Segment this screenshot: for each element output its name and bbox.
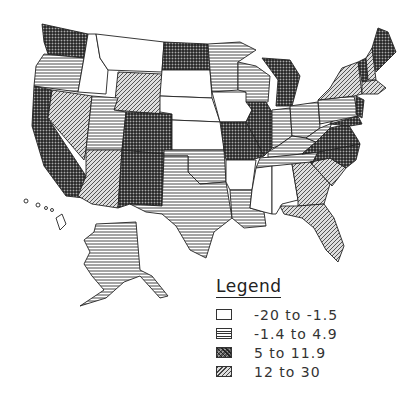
state-ME [372,28,396,72]
legend-label: -20 to -1.5 [254,307,338,323]
state-AR [226,160,256,190]
state-FL [280,204,344,262]
state-AK [80,222,168,306]
legend-label: 5 to 11.9 [254,345,326,361]
legend-item: -1.4 to 4.9 [216,324,366,343]
legend-swatch-crosshatch [216,347,232,358]
legend-item: 12 to 30 [216,362,366,381]
state-MT [96,34,164,72]
state-NJ [356,96,364,118]
state-ND [162,42,210,70]
legend-label: -1.4 to 4.9 [254,326,338,342]
state-HI [24,199,66,230]
legend: Legend -20 to -1.5 -1.4 to 4.9 5 to 11.9… [216,276,366,381]
state-KS [172,120,224,150]
state-MA [362,80,386,94]
state-WY [114,72,162,114]
legend-swatch-diagonal [216,366,232,377]
state-WA [42,24,88,58]
state-NM [118,150,164,208]
legend-label: 12 to 30 [254,364,321,380]
legend-item: 5 to 11.9 [216,343,366,362]
legend-item: -20 to -1.5 [216,305,366,324]
legend-swatch-blank [216,309,232,320]
state-CO [122,112,172,156]
state-SD [160,70,212,98]
legend-title: Legend [216,276,281,298]
legend-swatch-horizontal [216,328,232,339]
state-NY [318,62,362,100]
state-OR [34,54,84,92]
